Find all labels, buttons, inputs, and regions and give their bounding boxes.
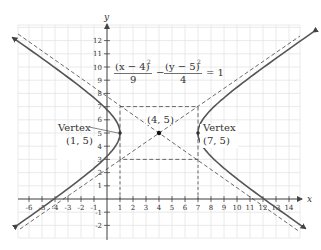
svg-text:-6: -6	[26, 204, 33, 212]
svg-text:2: 2	[98, 169, 102, 177]
svg-text:11: 11	[246, 204, 255, 212]
svg-text:6: 6	[98, 116, 103, 124]
svg-text:4: 4	[98, 143, 103, 151]
equation: (x − 4) 2 9 − (y − 5) 2 4 = 1	[114, 58, 224, 85]
svg-text:4: 4	[157, 204, 162, 212]
svg-text:1: 1	[118, 204, 122, 212]
left-vertex-leader	[89, 127, 118, 133]
x-axis-label: x	[307, 194, 312, 204]
right-vertex-title: Vertex	[202, 122, 236, 133]
y-ticks: -2-1123456789101112	[93, 37, 110, 230]
svg-text:11: 11	[93, 50, 102, 58]
eq-numerator-2: (y − 5)	[165, 61, 200, 72]
eq-denominator-2: 4	[180, 74, 186, 85]
x-ticks: -6-5-4-3-2-11234567891011121314	[26, 196, 294, 212]
svg-text:3: 3	[144, 204, 148, 212]
svg-text:5: 5	[170, 204, 174, 212]
svg-text:14: 14	[285, 204, 294, 212]
right-vertex-point	[196, 131, 200, 135]
eq-numerator-1: (x − 4)	[115, 61, 150, 72]
center-label: (4, 5)	[147, 114, 174, 125]
left-vertex-title: Vertex	[57, 122, 91, 133]
svg-text:-2: -2	[78, 204, 85, 212]
svg-text:7: 7	[196, 204, 200, 212]
svg-text:5: 5	[98, 130, 102, 138]
eq-rhs: = 1	[206, 67, 224, 78]
svg-text:8: 8	[209, 204, 213, 212]
y-axis-label: y	[103, 12, 110, 22]
svg-text:12: 12	[93, 37, 102, 45]
eq-minus: −	[156, 67, 164, 78]
hyperbola-figure: -6-5-4-3-2-11234567891011121314 -2-11234…	[0, 0, 321, 250]
svg-text:8: 8	[98, 90, 102, 98]
right-vertex-coords: (7, 5)	[203, 135, 230, 146]
svg-text:6: 6	[183, 204, 188, 212]
svg-text:9: 9	[98, 77, 102, 85]
left-vertex-point	[118, 131, 122, 135]
svg-text:10: 10	[93, 64, 102, 72]
svg-text:-4: -4	[52, 204, 59, 212]
left-vertex-coords: (1, 5)	[66, 135, 93, 146]
eq-exponent-2: 2	[197, 58, 201, 65]
svg-text:-2: -2	[95, 222, 102, 230]
svg-text:10: 10	[233, 204, 242, 212]
svg-text:9: 9	[222, 204, 226, 212]
svg-text:-3: -3	[65, 204, 72, 212]
svg-text:2: 2	[131, 204, 135, 212]
svg-text:12: 12	[259, 204, 268, 212]
center-point	[157, 131, 161, 135]
svg-text:1: 1	[98, 182, 102, 190]
eq-denominator-1: 9	[130, 74, 136, 85]
svg-text:-1: -1	[95, 209, 102, 217]
eq-exponent-1: 2	[147, 58, 151, 65]
